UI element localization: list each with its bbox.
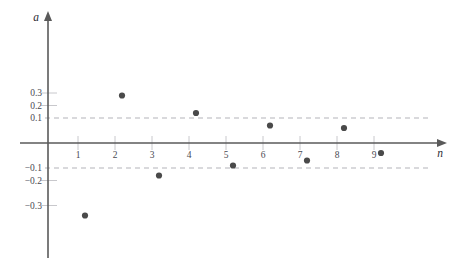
data-point [82, 212, 88, 218]
x-tick-label-9: 9 [372, 150, 377, 160]
plot-canvas: 0.3 0.2 0.1 −0.1 −0.2 −0.3 1 2 3 4 5 6 7… [0, 0, 454, 266]
data-point [378, 150, 384, 156]
x-tick-label-5: 5 [224, 150, 229, 160]
data-point [193, 110, 199, 116]
y-axis-label: a [33, 11, 39, 23]
x-tick-label-2: 2 [113, 150, 118, 160]
data-point [341, 125, 347, 131]
x-tick-label-7: 7 [298, 150, 303, 160]
y-tick-label-neg-0-2: −0.2 [25, 176, 42, 186]
axes [20, 11, 447, 258]
data-point [304, 157, 310, 163]
y-tick-label-neg-0-3: −0.3 [25, 201, 42, 211]
y-tick-label-neg-0-1: −0.1 [25, 163, 42, 173]
data-point [267, 122, 273, 128]
scatter-plot-figure: 0.3 0.2 0.1 −0.1 −0.2 −0.3 1 2 3 4 5 6 7… [0, 0, 454, 266]
x-axis-label: n [437, 147, 443, 159]
y-tick-label-0-3: 0.3 [30, 88, 42, 98]
y-axis-arrowhead [44, 11, 52, 21]
data-point [119, 92, 125, 98]
y-tick-labels: 0.3 0.2 0.1 −0.1 −0.2 −0.3 [25, 88, 42, 211]
x-tick-label-8: 8 [335, 150, 340, 160]
x-tick-label-3: 3 [150, 150, 155, 160]
data-point [230, 162, 236, 168]
x-tick-label-6: 6 [261, 150, 266, 160]
x-tick-label-4: 4 [187, 150, 192, 160]
x-tick-labels: 1 2 3 4 5 6 7 8 9 [76, 150, 377, 160]
y-axis-ticks [41, 93, 57, 206]
data-point [156, 172, 162, 178]
y-tick-label-0-1: 0.1 [30, 113, 42, 123]
y-tick-label-0-2: 0.2 [30, 101, 42, 111]
x-axis-arrowhead [437, 139, 447, 147]
x-tick-label-1: 1 [76, 150, 81, 160]
